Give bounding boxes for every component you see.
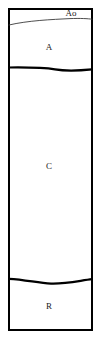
horizon-label-a: A [34,43,64,52]
horizon-label-c: C [34,162,64,171]
horizon-label-ao: Ao [56,9,86,18]
horizon-label-r: R [34,302,64,311]
